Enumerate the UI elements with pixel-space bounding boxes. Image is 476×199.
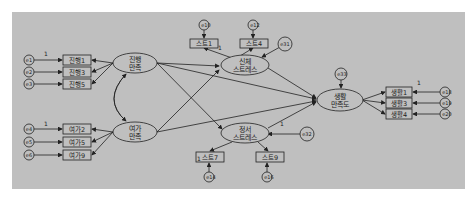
observed-label: 여가2 xyxy=(69,125,85,134)
latent-label: 정서 xyxy=(239,125,251,134)
observed-label: 생활1 xyxy=(391,88,407,97)
observed-label: 여가5 xyxy=(69,138,85,147)
observed-label: 스트1 xyxy=(196,40,212,48)
observed-label: 스트4 xyxy=(246,40,262,48)
observed-label: 여가9 xyxy=(69,151,85,160)
error-label: e3 xyxy=(26,81,32,87)
latent-label: 진행 xyxy=(129,55,141,64)
disturbance-label: e31 xyxy=(280,41,289,47)
error-label: e12 xyxy=(250,22,259,28)
latent-label: 생활 xyxy=(334,92,347,101)
disturbance-label: e32 xyxy=(302,131,311,137)
disturbance-label: e33 xyxy=(337,71,346,77)
error-label: e1 xyxy=(26,57,32,63)
error-label: e18 xyxy=(442,89,451,95)
fixed-path-label: 1 xyxy=(417,79,421,86)
fixed-path-label: 1 xyxy=(44,120,48,127)
observed-label: 진행1 xyxy=(69,56,85,65)
observed-label: 생활4 xyxy=(391,110,407,119)
latent-label: 스트레스 xyxy=(233,133,258,142)
observed-label: 스트9 xyxy=(262,154,278,162)
observed-label: 진행3 xyxy=(69,68,85,77)
fixed-path-label: 1 xyxy=(218,44,222,51)
fixed-path-label: 1 xyxy=(280,120,284,127)
error-label: e14 xyxy=(206,174,215,180)
observed-label: 스트7 xyxy=(202,154,218,162)
error-label: e16 xyxy=(264,174,273,180)
observed-label: 생활3 xyxy=(391,99,407,108)
error-label: e5 xyxy=(26,139,32,145)
error-label: e10 xyxy=(201,22,210,28)
error-label: e4 xyxy=(26,126,32,132)
latent-label: 만족도 xyxy=(331,100,350,109)
error-label: e2 xyxy=(26,69,32,75)
observed-label: 진행5 xyxy=(69,80,85,89)
error-label: e6 xyxy=(26,152,32,158)
latent-label: 여가 xyxy=(129,124,142,133)
fixed-path-label: 1 xyxy=(44,50,48,57)
latent-label: 만족 xyxy=(129,63,142,72)
error-label: e20 xyxy=(442,111,451,117)
sem-path-diagram: 진행 만족 여가 만족 신체 스트레스 정서 스트레스 생활 만족도 진행1 진… xyxy=(0,0,476,199)
latent-label: 만족 xyxy=(129,132,142,141)
latent-label: 신체 xyxy=(239,57,251,66)
fixed-path-label: 1 xyxy=(197,155,201,162)
error-label: e19 xyxy=(442,100,451,106)
latent-label: 스트레스 xyxy=(233,65,258,74)
